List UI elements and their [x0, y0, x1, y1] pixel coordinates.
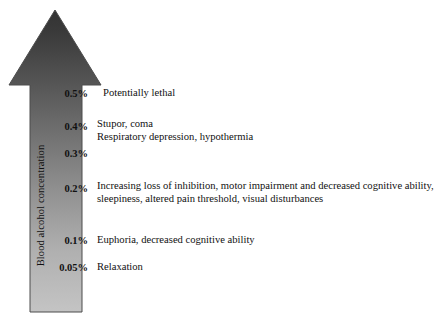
tick-label-text: 0.1%	[14, 235, 88, 246]
tick-label-0-3pct: 0.3%	[0, 148, 88, 161]
tick-label-text: 0.5%	[14, 88, 88, 99]
tick-label-text: 0.4%	[14, 121, 88, 132]
tick-label-text: 0.3%	[14, 148, 88, 159]
tick-label-0-4pct: 0.4%	[0, 121, 88, 134]
effect-description-line: Euphoria, decreased cognitive ability	[97, 234, 255, 247]
axis-title-blood-alcohol-concentration: Blood alcohol concentration	[35, 106, 46, 306]
tick-label-0-05pct: 0.05%	[0, 262, 88, 275]
tick-label-0-5pct: 0.5%	[0, 88, 88, 101]
effect-description-line: Respiratory depression, hypothermia	[97, 131, 253, 144]
tick-label-text: 0.2%	[14, 183, 88, 194]
effect-description-line: Potentially lethal	[103, 87, 175, 100]
effect-description-line: Stupor, coma	[97, 118, 153, 131]
effect-description-line: sleepiness, altered pain threshold, visu…	[97, 193, 323, 206]
effect-description-line: Relaxation	[97, 261, 143, 274]
tick-label-text: 0.05%	[14, 262, 88, 273]
blood-alcohol-concentration-diagram: Blood alcohol concentration 0.5%0.4%0.3%…	[0, 0, 438, 323]
tick-label-0-2pct: 0.2%	[0, 183, 88, 196]
tick-label-0-1pct: 0.1%	[0, 235, 88, 248]
effect-description-line: Increasing loss of inhibition, motor imp…	[97, 180, 434, 193]
